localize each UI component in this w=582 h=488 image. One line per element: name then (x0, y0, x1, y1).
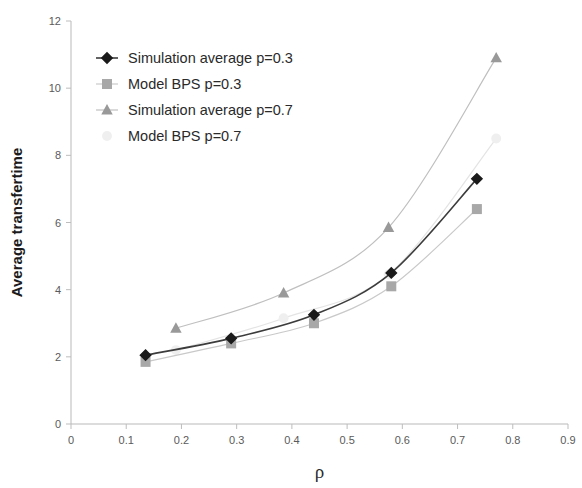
legend-item-label: Simulation average p=0.7 (128, 102, 293, 118)
series-line (146, 179, 477, 355)
data-point-marker (472, 204, 482, 214)
y-tick-label: 0 (55, 418, 61, 430)
x-tick-label: 0.4 (284, 434, 299, 446)
data-point-marker (490, 52, 501, 62)
data-point-marker (278, 287, 289, 297)
y-axis-title: Average transfertime (8, 148, 25, 298)
chart-figure: 02468101200.10.20.30.40.50.60.70.80.9Ave… (0, 0, 582, 488)
legend-marker-swatch (102, 53, 112, 63)
data-point-marker (491, 134, 501, 144)
x-tick-label: 0.7 (450, 434, 465, 446)
x-axis-title: ρ (315, 461, 324, 482)
y-tick-label: 10 (49, 82, 61, 94)
x-tick-label: 0 (68, 434, 74, 446)
y-tick-label: 8 (55, 149, 61, 161)
line-chart-canvas: 02468101200.10.20.30.40.50.60.70.80.9Ave… (0, 0, 582, 488)
legend-item-label: Model BPS p=0.7 (128, 128, 241, 144)
y-tick-label: 4 (55, 284, 61, 296)
legend-marker-swatch (102, 79, 112, 89)
data-point-marker (386, 281, 396, 291)
legend-item-label: Model BPS p=0.3 (128, 76, 241, 92)
legend-item-label: Simulation average p=0.3 (128, 50, 293, 66)
series-line (176, 58, 496, 328)
legend-marker-swatch (101, 104, 112, 114)
x-tick-label: 0.2 (174, 434, 189, 446)
y-tick-label: 2 (55, 351, 61, 363)
x-tick-label: 0.1 (119, 434, 134, 446)
x-tick-label: 0.6 (395, 434, 410, 446)
y-tick-label: 12 (49, 15, 61, 27)
series-line (176, 139, 496, 351)
y-tick-label: 6 (55, 217, 61, 229)
legend-marker-swatch (102, 131, 112, 141)
x-tick-label: 0.5 (339, 434, 354, 446)
x-tick-label: 0.9 (560, 434, 575, 446)
x-tick-label: 0.8 (505, 434, 520, 446)
data-point-marker (279, 313, 289, 323)
x-tick-label: 0.3 (229, 434, 244, 446)
